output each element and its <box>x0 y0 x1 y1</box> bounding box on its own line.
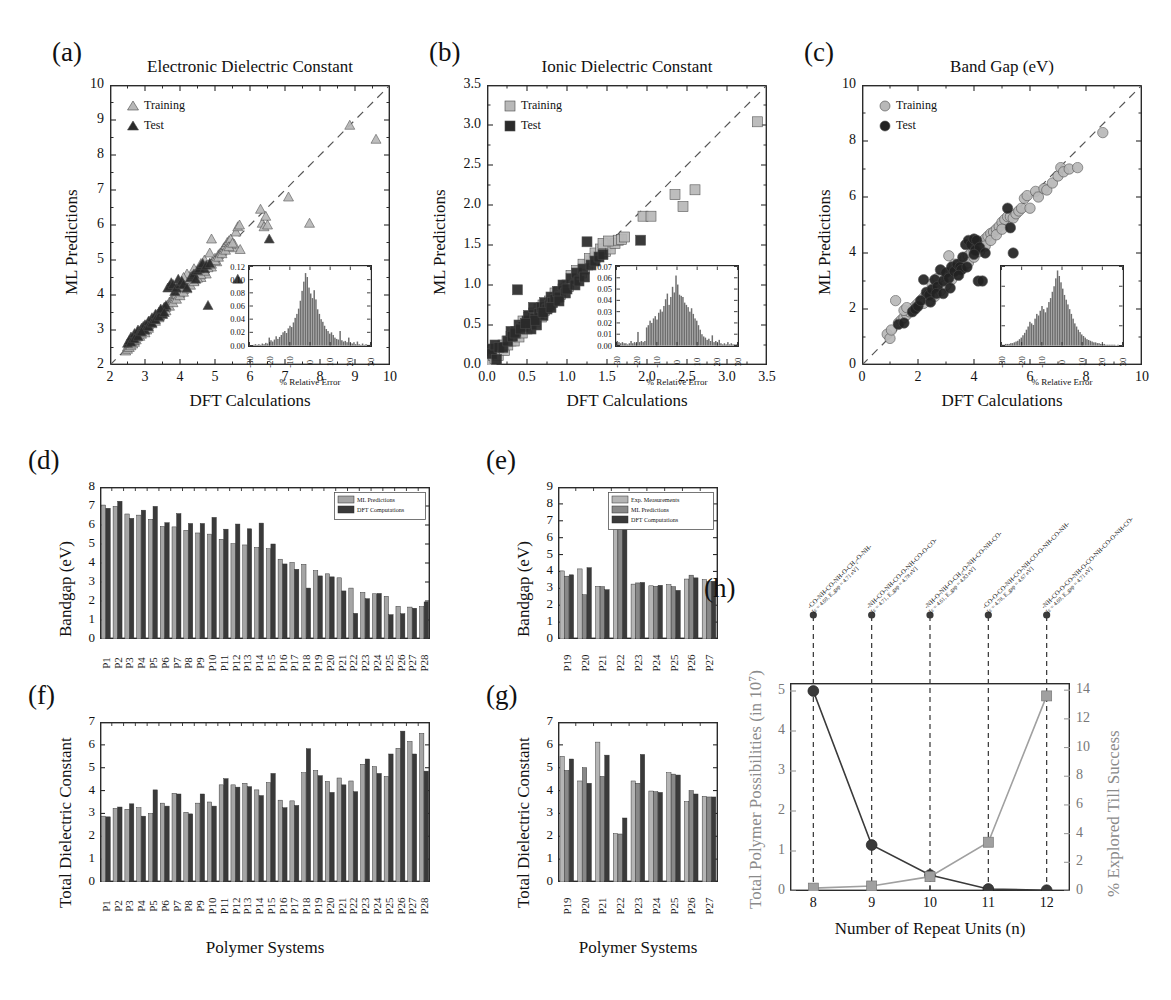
bar-e-P25 <box>667 585 671 639</box>
bar-e-P19 <box>569 575 573 639</box>
legend-marker-a-0 <box>126 99 140 113</box>
bar-e-P25 <box>671 587 675 639</box>
xtick-f-P20: P20 <box>324 886 336 926</box>
ytick-f: 6 <box>74 736 95 752</box>
xtick-d-P8: P8 <box>182 643 194 683</box>
xtick-c: 10 <box>1124 369 1160 385</box>
bar-f-P5 <box>148 813 152 882</box>
ytick-h-left-4: 4 <box>764 722 785 738</box>
bar-g-P26 <box>684 802 688 882</box>
xtick-a: 10 <box>372 369 408 385</box>
inset-histogram-a <box>248 265 372 347</box>
ytick-g: 1 <box>532 850 553 866</box>
bar-f-P10 <box>207 802 211 882</box>
bar-g-P23 <box>636 783 640 882</box>
xtick-d-P25: P25 <box>383 643 395 683</box>
bar-d-P3 <box>125 514 129 639</box>
panel-label-h: (h) <box>704 573 735 604</box>
bar-f-P15 <box>271 773 275 882</box>
line-chart-h <box>790 603 1072 891</box>
xaxis-label-h: Number of Repeat Units (n) <box>790 919 1070 939</box>
bar-d-P18 <box>306 588 310 639</box>
panel-title-b: Ionic Dielectric Constant <box>467 57 787 77</box>
bar-f-P20 <box>330 792 334 882</box>
bar-d-P21 <box>337 578 341 639</box>
inset-ytick-b-5: 0.05 <box>585 284 612 294</box>
bar-d-P7 <box>177 514 181 639</box>
bar-f-P6 <box>160 803 164 882</box>
bar-d-P23 <box>361 592 365 639</box>
bar-d-P16 <box>283 564 287 639</box>
xtick-f-P16: P16 <box>277 886 289 926</box>
xtick-d-P10: P10 <box>206 643 218 683</box>
bar-f-P20 <box>325 781 329 882</box>
xtick-d-P14: P14 <box>253 643 265 683</box>
ytick-g: 2 <box>532 827 553 843</box>
bar-f-P26 <box>396 748 400 882</box>
bar-d-P4 <box>137 515 141 639</box>
bar-f-P28 <box>420 733 424 882</box>
bar-d-P17 <box>294 569 298 639</box>
bar-chart-g <box>558 722 718 882</box>
bar-d-P4 <box>141 510 145 639</box>
bar-f-P11 <box>224 779 228 882</box>
xtick-f-P21: P21 <box>336 886 348 926</box>
bar-g-P24 <box>658 792 662 882</box>
yaxis-label-h-left: Total Polymer Possibilities (in 10⁷) <box>746 670 766 909</box>
bar-d-P10 <box>207 534 211 639</box>
xtick-f-P15: P15 <box>265 886 277 926</box>
bar-g-P20 <box>582 768 586 882</box>
bar-g-P27 <box>702 796 706 882</box>
bar-f-P2 <box>118 807 122 882</box>
xtick-h-10: 10 <box>914 895 946 911</box>
xtick-f-P2: P2 <box>112 886 124 926</box>
bar-e-P26 <box>689 575 693 639</box>
bar-d-P8 <box>188 523 192 639</box>
bar-f-P25 <box>389 754 393 882</box>
inset-ytick-b-1: 0.01 <box>585 329 612 339</box>
xtick-e-P20: P20 <box>579 643 591 683</box>
inset-ytick-a-4: 0.08 <box>218 288 245 298</box>
xtick-d-P12: P12 <box>230 643 242 683</box>
xtick-d-P26: P26 <box>395 643 407 683</box>
bar-g-P26 <box>694 794 698 882</box>
ytick-f: 4 <box>74 782 95 798</box>
bar-d-P13 <box>243 545 247 639</box>
ytick-c: 8 <box>822 132 856 148</box>
xtick-f-P9: P9 <box>194 886 206 926</box>
ytick-e: 2 <box>532 596 553 612</box>
xtick-d-P15: P15 <box>265 643 277 683</box>
bar-f-P21 <box>342 785 346 882</box>
ytick-f: 2 <box>74 827 95 843</box>
bar-f-P4 <box>141 816 145 882</box>
bar-g-P25 <box>667 773 671 882</box>
bar-d-P26 <box>396 606 400 639</box>
bar-f-P3 <box>129 804 133 882</box>
ytick-c: 10 <box>822 76 856 92</box>
ytick-f: 7 <box>74 713 95 729</box>
bar-d-P22 <box>349 588 353 639</box>
bar-e-P20 <box>578 569 582 639</box>
xtick-f-P24: P24 <box>371 886 383 926</box>
xtick-e-P23: P23 <box>632 643 644 683</box>
panel-label-d: (d) <box>28 445 59 476</box>
legend-marker-b-1 <box>503 119 517 133</box>
xtick-d-P23: P23 <box>359 643 371 683</box>
bar-d-P5 <box>153 506 157 639</box>
xtick-g-P25: P25 <box>668 886 680 926</box>
bar-g-P24 <box>649 791 653 882</box>
xtick-f-P18: P18 <box>300 886 312 926</box>
inset-xlabel-c: % Relative Error <box>1000 377 1124 387</box>
bar-f-P11 <box>219 785 223 882</box>
xtick-d-P28: P28 <box>418 643 430 683</box>
bar-d-P18 <box>302 564 306 639</box>
bar-f-P5 <box>153 790 157 882</box>
xtick-c: 4 <box>956 369 992 385</box>
panel-title-c: Band Gap (eV) <box>842 57 1162 77</box>
ytick-d: 7 <box>74 497 95 513</box>
ytick-e: 5 <box>532 546 553 562</box>
xtick-f-P28: P28 <box>418 886 430 926</box>
bar-e-P21 <box>605 590 609 639</box>
bar-e-P24 <box>649 586 653 639</box>
legend-label-a-0: Training <box>144 98 185 113</box>
